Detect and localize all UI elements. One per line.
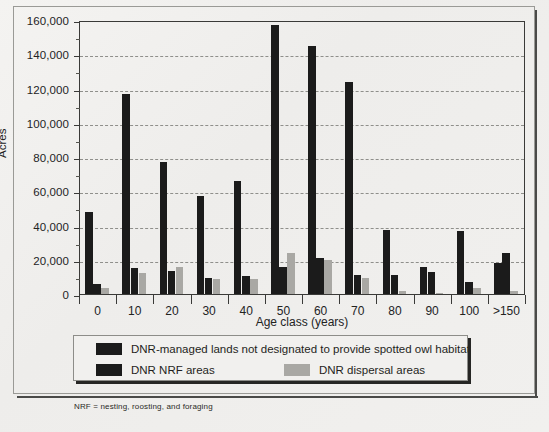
bar — [176, 267, 184, 294]
gridline — [80, 56, 524, 57]
legend-label: DNR dispersal areas — [319, 364, 425, 376]
bar — [345, 82, 353, 294]
bar — [197, 196, 205, 294]
legend-label: DNR NRF areas — [131, 364, 215, 376]
bar — [101, 288, 109, 294]
legend-swatch — [96, 343, 122, 355]
x-tick-separator — [488, 295, 489, 304]
bar — [139, 273, 147, 294]
y-tick-minor — [76, 279, 80, 280]
figure-footnote: NRF = nesting, roosting, and foraging — [74, 402, 213, 411]
y-tick-major — [74, 91, 80, 92]
bar — [131, 268, 139, 294]
y-tick-major — [74, 262, 80, 263]
bar — [213, 279, 221, 294]
legend-swatch — [284, 364, 310, 376]
bar — [234, 181, 242, 294]
plot-area — [79, 21, 525, 295]
y-tick-label: 140,000 — [27, 49, 69, 61]
x-tick-separator — [339, 295, 340, 304]
figure-border-shadow-right — [535, 10, 537, 398]
y-tick-minor — [76, 73, 80, 74]
y-tick-minor — [76, 39, 80, 40]
gridline — [80, 91, 524, 92]
legend-item: DNR NRF areas — [96, 359, 215, 380]
y-tick-label: 0 — [63, 289, 70, 301]
bar — [271, 25, 279, 294]
y-tick-label: 100,000 — [27, 118, 69, 130]
bar — [502, 253, 510, 294]
gridline — [80, 159, 524, 160]
bar — [428, 272, 436, 294]
legend-item: DNR dispersal areas — [284, 359, 425, 380]
y-tick-label: 60,000 — [33, 186, 69, 198]
x-tick-separator — [191, 295, 192, 304]
legend-label: DNR-managed lands not designated to prov… — [131, 343, 470, 355]
y-tick-major — [74, 193, 80, 194]
y-tick-major — [74, 228, 80, 229]
bar — [436, 293, 444, 294]
y-tick-major — [74, 159, 80, 160]
bar — [473, 288, 481, 294]
x-tick-separator — [265, 295, 266, 304]
bar — [399, 291, 407, 294]
y-tick-minor — [76, 245, 80, 246]
bar — [465, 282, 473, 294]
x-tick-separator — [79, 295, 80, 304]
bar — [279, 267, 287, 294]
y-tick-label: 80,000 — [33, 152, 69, 164]
x-axis-title: Age class (years) — [79, 315, 525, 329]
x-tick-separator — [302, 295, 303, 304]
y-tick-label: 120,000 — [27, 84, 69, 96]
y-axis: Acres 020,00040,00060,00080,000100,00012… — [0, 0, 79, 300]
bar — [383, 230, 391, 294]
gridline — [80, 125, 524, 126]
bar — [160, 162, 168, 294]
y-tick-label: 20,000 — [33, 255, 69, 267]
bar — [354, 275, 362, 294]
y-tick-minor — [76, 108, 80, 109]
y-axis-title: Acres — [0, 129, 8, 158]
bar — [510, 291, 518, 294]
bar — [457, 231, 465, 294]
bar — [242, 276, 250, 294]
x-tick-separator — [414, 295, 415, 304]
plot-inner — [80, 22, 524, 294]
x-tick-separator — [376, 295, 377, 304]
bar — [420, 267, 428, 294]
legend-item: DNR-managed lands not designated to prov… — [96, 338, 470, 359]
x-tick-separator — [525, 295, 526, 304]
gridline — [80, 228, 524, 229]
bar — [93, 284, 101, 294]
legend-shadow-right — [468, 338, 471, 384]
legend-shadow-bottom — [76, 381, 471, 384]
bar — [250, 279, 258, 294]
y-tick-minor — [76, 210, 80, 211]
gridline — [80, 193, 524, 194]
y-tick-major — [74, 22, 80, 23]
y-tick-major — [74, 125, 80, 126]
bar — [85, 212, 93, 294]
legend-swatch — [96, 364, 122, 376]
y-tick-label: 40,000 — [33, 221, 69, 233]
bar — [324, 260, 332, 294]
bar — [494, 263, 502, 294]
y-tick-label: 160,000 — [27, 15, 69, 27]
figure-border-shadow-bottom — [17, 396, 538, 398]
x-tick-separator — [153, 295, 154, 304]
legend: DNR-managed lands not designated to prov… — [73, 335, 468, 381]
bar — [362, 278, 370, 294]
bar — [287, 253, 295, 294]
y-tick-minor — [76, 142, 80, 143]
bar — [308, 46, 316, 294]
bar — [316, 258, 324, 294]
figure-page: Acres 020,00040,00060,00080,000100,00012… — [0, 0, 549, 432]
y-tick-major — [74, 56, 80, 57]
bar — [168, 271, 176, 294]
bar — [122, 94, 130, 294]
x-tick-separator — [228, 295, 229, 304]
bar — [391, 275, 399, 294]
x-tick-separator — [116, 295, 117, 304]
y-tick-minor — [76, 176, 80, 177]
x-tick-separator — [451, 295, 452, 304]
